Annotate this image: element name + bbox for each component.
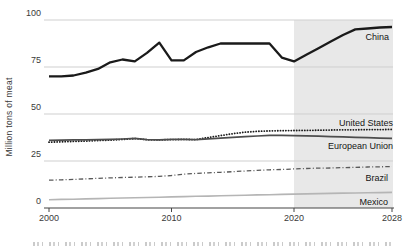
chart-canvas: Million tons of meat 0255075100200020102…	[0, 0, 409, 246]
cropped-caption-text	[33, 242, 391, 246]
y-tick-label-75: 75	[31, 55, 41, 65]
meat-production-line-chart: Million tons of meat 0255075100200020102…	[0, 0, 409, 246]
series-label-mexico: Mexico	[359, 197, 388, 207]
y-tick-label-0: 0	[36, 196, 41, 206]
y-tick-label-25: 25	[31, 149, 41, 159]
y-tick-label-50: 50	[31, 102, 41, 112]
x-tick-label-2020: 2020	[284, 213, 304, 223]
series-label-european-union: European Union	[328, 141, 393, 151]
y-tick-label-100: 100	[26, 8, 41, 18]
y-axis-title: Million tons of meat	[4, 77, 14, 157]
x-tick-label-2010: 2010	[161, 213, 181, 223]
x-tick-label-2000: 2000	[39, 213, 59, 223]
x-tick-label-2028: 2028	[382, 213, 402, 223]
series-label-united-states: United States	[339, 118, 394, 128]
series-label-brazil: Brazil	[365, 173, 388, 183]
series-label-china: China	[365, 32, 389, 42]
